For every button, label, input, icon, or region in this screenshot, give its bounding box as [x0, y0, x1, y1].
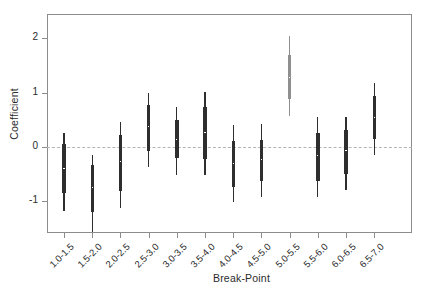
median-point — [316, 154, 319, 157]
x-tick-5.5-6.0 — [318, 233, 319, 238]
y-tick--1 — [42, 201, 47, 202]
median-point — [91, 186, 94, 189]
x-tick-6.5-7.0 — [374, 233, 375, 238]
median-point — [373, 116, 376, 119]
median-point — [203, 131, 206, 134]
x-tick-6.0-6.5 — [346, 233, 347, 238]
median-point — [260, 158, 263, 161]
zero-reference-line — [47, 147, 412, 148]
coefficient-breakpoint-chart: Coefficient -1012 1.0-1.51.5-2.02.0-2.52… — [0, 0, 423, 291]
x-tick-1.5-2.0 — [92, 233, 93, 238]
y-tick-label-1: 1 — [0, 86, 38, 97]
median-point — [147, 125, 150, 128]
y-tick-label-2: 2 — [0, 31, 38, 42]
x-axis-title-text: Break-Point — [153, 272, 270, 284]
x-tick-5.0-5.5 — [290, 233, 291, 238]
x-tick-3.0-3.5 — [177, 233, 178, 238]
x-tick-4.5-5.0 — [261, 233, 262, 238]
x-tick-2.5-3.0 — [149, 233, 150, 238]
x-tick-4.0-4.5 — [233, 233, 234, 238]
y-tick-label--1: -1 — [0, 194, 38, 205]
y-tick-label-0: 0 — [0, 140, 38, 151]
y-tick-2 — [42, 38, 47, 39]
median-point — [62, 167, 65, 170]
inner-interval-bar — [344, 130, 347, 175]
y-tick-1 — [42, 93, 47, 94]
median-point — [232, 162, 235, 165]
median-point — [344, 149, 347, 152]
median-point — [288, 76, 291, 79]
x-tick-1.0-1.5 — [64, 233, 65, 238]
median-point — [119, 160, 122, 163]
x-axis-title: Break-Point — [0, 272, 423, 284]
x-tick-3.5-4.0 — [205, 233, 206, 238]
plot-area — [47, 14, 412, 233]
x-tick-2.0-2.5 — [120, 233, 121, 238]
median-point — [175, 138, 178, 141]
